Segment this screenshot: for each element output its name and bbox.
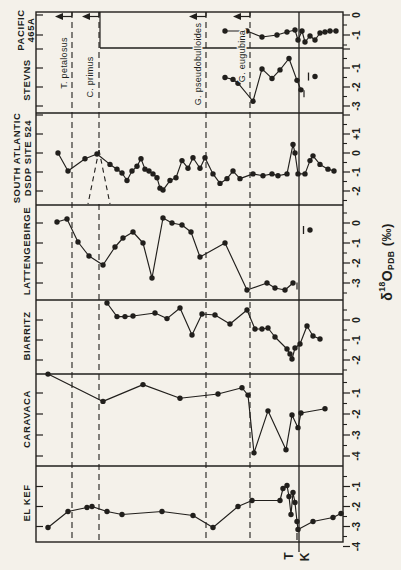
data-point — [222, 75, 227, 80]
data-point — [290, 280, 295, 285]
data-point — [82, 156, 87, 161]
tick-label: -2 — [350, 502, 362, 511]
panel-label: STEVNS — [21, 59, 32, 101]
data-point — [310, 333, 315, 338]
tick-label: -4 — [350, 542, 362, 551]
data-point — [310, 519, 315, 524]
data-point — [138, 156, 143, 161]
data-point — [100, 399, 105, 404]
data-point — [284, 29, 289, 34]
data-point — [292, 27, 297, 32]
data-point — [130, 229, 135, 234]
data-point — [264, 280, 269, 285]
tick-label: 0 — [350, 317, 362, 323]
panel-label: LATTENGEBIRGE — [21, 207, 32, 295]
data-point — [322, 29, 327, 34]
data-point — [134, 164, 139, 169]
zone-label: G. eugubina — [237, 30, 247, 82]
tick-label: -2 — [350, 409, 362, 418]
scanned-figure-page: 0-1PACIFIC465A-1-2-3STEVNS+10-1-2SOUTH A… — [0, 0, 401, 570]
data-point — [310, 153, 315, 158]
tick-label: -2 — [350, 82, 362, 91]
data-point — [119, 512, 124, 517]
data-point — [260, 173, 265, 178]
tertiary-label: T — [282, 552, 296, 560]
data-point — [190, 155, 195, 160]
data-point — [164, 316, 169, 321]
data-point — [100, 262, 105, 267]
data-point — [292, 150, 297, 155]
data-point — [179, 158, 184, 163]
data-point — [284, 346, 289, 351]
tick-label: -4 — [350, 451, 362, 460]
tick-label: -1 — [350, 63, 362, 72]
tick-label: +1 — [350, 128, 362, 140]
data-point — [202, 155, 207, 160]
data-point — [289, 356, 294, 361]
data-point — [284, 483, 289, 488]
data-point — [265, 325, 270, 330]
data-point — [188, 229, 193, 234]
tick-label: -3 — [350, 101, 362, 110]
data-point — [179, 222, 184, 227]
data-point — [327, 28, 332, 33]
data-point — [119, 170, 124, 175]
data-point — [159, 509, 164, 514]
data-point — [277, 498, 282, 503]
data-point — [298, 410, 303, 415]
data-point — [65, 168, 70, 173]
data-point — [283, 447, 288, 452]
data-point — [104, 509, 109, 514]
tick-label: -1 — [350, 238, 362, 247]
data-point — [173, 175, 178, 180]
tick-label: -1 — [350, 335, 362, 344]
data-point — [244, 287, 249, 292]
data-point — [272, 285, 277, 290]
data-point — [140, 240, 145, 245]
data-point — [224, 176, 229, 181]
data-point — [287, 351, 292, 356]
data-point — [84, 505, 89, 510]
data-point — [189, 332, 194, 337]
data-point — [222, 28, 227, 33]
panel-label: DSDP SITE 524 — [22, 120, 33, 196]
data-point — [177, 305, 182, 310]
data-point — [250, 99, 255, 104]
data-point — [295, 527, 300, 532]
data-point — [259, 34, 264, 39]
panel-label: BIARRITZ — [21, 311, 32, 360]
data-point — [152, 310, 157, 315]
tick-label: -1 — [350, 388, 362, 397]
data-point — [160, 187, 165, 192]
data-point — [294, 78, 299, 83]
tick-label: -2 — [350, 186, 362, 195]
tick-label: -1 — [350, 482, 362, 491]
data-point — [217, 181, 222, 186]
data-point — [120, 235, 125, 240]
data-point — [122, 314, 127, 319]
data-point — [112, 244, 117, 249]
data-point — [307, 33, 312, 38]
tick-label: -2 — [350, 355, 362, 364]
data-point — [277, 67, 282, 72]
panel-label: SOUTH ATLANTIC — [11, 113, 22, 204]
data-point — [330, 515, 335, 520]
panel-label: EL KEF — [21, 484, 32, 521]
data-point — [149, 275, 154, 280]
data-point — [190, 513, 195, 518]
panel-label: 465A — [25, 17, 36, 42]
data-point — [114, 314, 119, 319]
data-point — [199, 311, 204, 316]
data-point — [317, 336, 322, 341]
data-point — [295, 37, 300, 42]
data-point — [272, 334, 277, 339]
data-point — [292, 500, 297, 505]
data-point — [222, 240, 227, 245]
data-point — [312, 74, 317, 79]
data-point — [269, 171, 274, 176]
data-point — [317, 30, 322, 35]
data-point — [307, 227, 312, 232]
data-point — [304, 323, 309, 328]
data-point — [288, 512, 293, 517]
data-point — [282, 287, 287, 292]
